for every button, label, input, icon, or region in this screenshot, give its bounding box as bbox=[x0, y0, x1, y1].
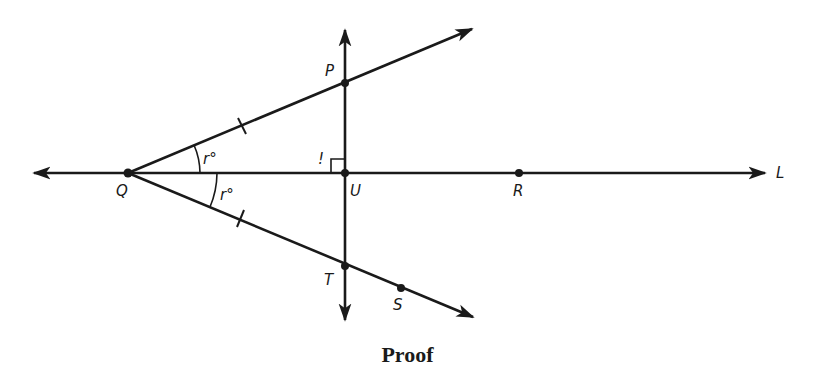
label-line-L: L bbox=[776, 164, 784, 182]
label-angle-upper: r° bbox=[203, 150, 217, 168]
point-R bbox=[515, 169, 523, 177]
label-angle-lower: r° bbox=[220, 186, 234, 204]
label-P: P bbox=[325, 62, 335, 80]
point-P bbox=[341, 79, 349, 87]
point-Q bbox=[124, 169, 133, 178]
label-Q: Q bbox=[116, 182, 128, 200]
label-T: T bbox=[324, 271, 335, 289]
point-S bbox=[397, 284, 405, 292]
figure-caption: Proof bbox=[0, 342, 815, 368]
label-right-angle-mark: ! bbox=[318, 150, 324, 168]
label-U: U bbox=[350, 182, 361, 200]
angle-arc-lower bbox=[210, 173, 217, 207]
label-S: S bbox=[393, 296, 403, 314]
ray-QP bbox=[128, 29, 472, 173]
label-R: R bbox=[513, 182, 523, 200]
point-T bbox=[341, 262, 349, 270]
ray-QS bbox=[128, 173, 473, 317]
point-U bbox=[341, 169, 349, 177]
geometry-figure: Q P U T R S L r° r° ! bbox=[0, 0, 815, 379]
angle-arc-upper bbox=[194, 145, 200, 173]
